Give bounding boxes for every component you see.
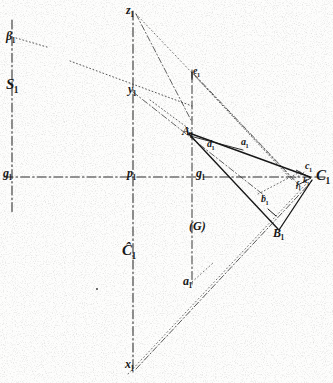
construction-line-b-to-c: [258, 172, 300, 194]
construction-line-z-to-right: [136, 14, 192, 122]
label-A-1: A1: [182, 125, 193, 140]
geometric-construction-drawing: [0, 0, 333, 383]
construction-line-e-to-lower-right: [195, 76, 292, 180]
ink-speck: [96, 288, 98, 290]
label-k-1: k1: [303, 176, 309, 187]
label-C-1: C1: [316, 168, 330, 186]
construction-line-e-dashdot: [194, 74, 300, 186]
label-B-1: B1: [273, 227, 284, 242]
label-p-1: p1: [127, 167, 136, 182]
label-g-1-left: g1: [3, 167, 12, 182]
label-f-1: f1: [296, 180, 301, 191]
label-y-mid: y1: [128, 83, 137, 98]
construction-line-x-to-C: [136, 181, 312, 369]
label-a-1: a1: [183, 275, 192, 290]
right-angle-mark-b: [268, 209, 276, 216]
figure-page: β1 S1 g1 z1 p1 Ĉ1 x1 e1 A1 d1 a1 g1 b1 B…: [0, 0, 333, 383]
label-c-1: c1: [305, 161, 312, 173]
label-z-1: z1: [126, 4, 134, 19]
label-e-1: e1: [193, 66, 200, 78]
construction-line-a-stub: [192, 263, 213, 282]
construction-line-x-to-C-parallel: [128, 184, 306, 374]
paper-grain: [0, 0, 333, 383]
label-d-1: d1: [207, 139, 215, 151]
label-b-1: b1: [261, 194, 269, 206]
label-figure-caption: (G): [189, 220, 206, 232]
label-a-small-1: a1: [241, 137, 249, 149]
label-g-1-right: g1: [196, 167, 205, 182]
label-x-1: x1: [125, 358, 134, 373]
label-C-script-middle: Ĉ1: [122, 243, 136, 261]
label-beta-1: β1: [6, 30, 15, 45]
construction-line-beta-stub: [16, 38, 47, 47]
label-S-1: S1: [6, 77, 19, 95]
